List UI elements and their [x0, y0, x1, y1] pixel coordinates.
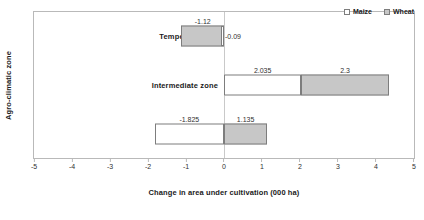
- bar-value-label: 2.3: [340, 66, 350, 73]
- bar-value-label: -0.09: [225, 33, 241, 40]
- x-tick: 4: [374, 159, 378, 170]
- plot-frame: Temperate zone-1.12-0.09Intermediate zon…: [33, 11, 415, 159]
- x-tick: 0: [222, 159, 226, 170]
- legend-label: Wheat: [393, 8, 414, 15]
- bar-segment-maize[interactable]: -1.825: [155, 123, 224, 144]
- tick-mark: [414, 159, 415, 162]
- tick-label: 5: [412, 163, 416, 170]
- tick-label: -4: [69, 163, 75, 170]
- chart-legend: MaizeWheat: [344, 8, 414, 15]
- tick-mark: [338, 159, 339, 162]
- x-tick: 3: [336, 159, 340, 170]
- y-axis-title-label: Agro-climatic zone: [4, 51, 13, 120]
- x-tick: -2: [145, 159, 151, 170]
- tick-label: -1: [183, 163, 189, 170]
- x-tick: -5: [31, 159, 37, 170]
- bar-segment-maize[interactable]: -0.09: [221, 26, 224, 47]
- x-axis-ticks: -5-4-3-2-1012345: [33, 159, 415, 173]
- x-tick: -4: [69, 159, 75, 170]
- tick-mark: [262, 159, 263, 162]
- tick-mark: [300, 159, 301, 162]
- x-tick: 1: [260, 159, 264, 170]
- y-axis-title: Agro-climatic zone: [0, 11, 16, 159]
- bar-value-label: -1.825: [179, 115, 199, 122]
- bar-value-label: 1.135: [237, 115, 255, 122]
- bar-segment-maize[interactable]: 2.035: [224, 74, 301, 95]
- tick-label: 3: [336, 163, 340, 170]
- legend-swatch-maize-icon: [344, 9, 350, 15]
- bar-segment-wheat[interactable]: 1.135: [224, 123, 267, 144]
- bar-track: -1.12-0.09: [34, 26, 414, 47]
- legend-label: Maize: [353, 8, 372, 15]
- tick-label: 4: [374, 163, 378, 170]
- legend-item-maize[interactable]: Maize: [344, 8, 372, 15]
- bar-group: Intermediate zone2.0352.3: [34, 61, 414, 110]
- chart-container: Agro-climatic zone Temperate zone-1.12-0…: [0, 0, 424, 220]
- x-tick: 2: [298, 159, 302, 170]
- bar-segment-wheat[interactable]: -1.12: [181, 26, 224, 47]
- bar-track: -1.8251.135: [34, 123, 414, 144]
- bar-group: Temperate zone-1.12-0.09: [34, 12, 414, 61]
- tick-label: 0: [222, 163, 226, 170]
- tick-mark: [109, 159, 110, 162]
- plot-area: Temperate zone-1.12-0.09Intermediate zon…: [34, 12, 414, 158]
- bar-track: 2.0352.3: [34, 74, 414, 95]
- tick-mark: [376, 159, 377, 162]
- x-tick: -1: [183, 159, 189, 170]
- x-tick: -3: [107, 159, 113, 170]
- tick-label: 2: [298, 163, 302, 170]
- legend-item-wheat[interactable]: Wheat: [384, 8, 414, 15]
- bar-group: Sub-tropical-1.8251.135: [34, 109, 414, 158]
- tick-mark: [33, 159, 34, 162]
- x-axis-title: Change in area under cultivation (000 ha…: [33, 188, 415, 197]
- tick-mark: [185, 159, 186, 162]
- tick-mark: [71, 159, 72, 162]
- tick-label: -2: [145, 163, 151, 170]
- tick-label: 1: [260, 163, 264, 170]
- legend-swatch-wheat-icon: [384, 9, 390, 15]
- x-tick: 5: [412, 159, 416, 170]
- bar-value-label: 2.035: [254, 66, 272, 73]
- bar-value-label: -1.12: [195, 18, 211, 25]
- tick-mark: [147, 159, 148, 162]
- tick-mark: [224, 159, 225, 162]
- tick-label: -5: [31, 163, 37, 170]
- tick-label: -3: [107, 163, 113, 170]
- bar-segment-wheat[interactable]: 2.3: [301, 74, 388, 95]
